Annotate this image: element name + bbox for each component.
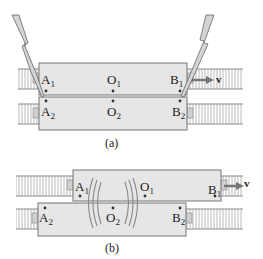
caption-a: (a) (105, 137, 118, 149)
label-a1-a: A1 (41, 73, 55, 89)
point-b2-dot (179, 100, 182, 103)
label-o2-b: O2 (106, 211, 120, 227)
coupler-a2-right (187, 108, 193, 118)
point-o2-dot (112, 100, 115, 103)
point-o2-dot-b (112, 207, 115, 210)
coupler-b2-right (186, 213, 192, 223)
label-b1-a: B1 (170, 73, 183, 89)
caption-b: (b) (105, 242, 119, 254)
point-a2-dot (45, 100, 48, 103)
point-a1-dot (45, 90, 48, 93)
label-a2-a: A2 (41, 105, 55, 121)
coupler-b2-left (32, 213, 38, 223)
label-o2-a: O2 (107, 105, 121, 121)
point-b1-dot (179, 90, 182, 93)
label-o1-b: O1 (140, 180, 154, 196)
label-b1-b: B1 (208, 183, 221, 199)
coupler-a2-left (33, 108, 39, 118)
velocity-label-a: v (216, 74, 222, 85)
coupler-b1-left (67, 180, 73, 190)
point-a2-dot-b (44, 207, 47, 210)
label-b2-b: B2 (172, 211, 185, 227)
label-b2-a: B2 (172, 105, 185, 121)
label-a2-b: A2 (39, 211, 53, 227)
label-o1-a: O1 (107, 73, 121, 89)
label-a1-b: A1 (75, 180, 89, 196)
point-o1-dot (112, 90, 115, 93)
point-b2-dot-b (179, 207, 182, 210)
velocity-label-b: v (244, 178, 250, 189)
